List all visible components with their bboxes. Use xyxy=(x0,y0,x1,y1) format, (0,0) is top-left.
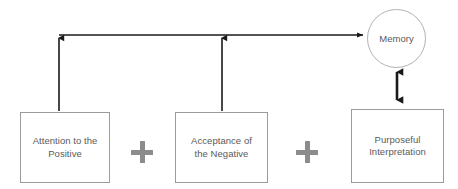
node-label-purposeful-interpretation: Purposeful Interpretation xyxy=(364,134,431,159)
node-label-memory: Memory xyxy=(379,33,413,45)
node-label-attention-to-the-positive: Attention to the Positive xyxy=(28,135,103,160)
node-purposeful-interpretation[interactable]: Purposeful Interpretation xyxy=(351,109,444,183)
node-acceptance-of-the-negative[interactable]: Acceptance of the Negative xyxy=(175,112,268,183)
plus-icon-one xyxy=(131,141,153,163)
node-label-acceptance-of-the-negative: Acceptance of the Negative xyxy=(186,135,257,160)
node-memory[interactable]: Memory xyxy=(367,9,426,68)
plus-icon-two xyxy=(296,141,318,163)
diagram-canvas: Attention to the Positive Acceptance of … xyxy=(0,0,458,189)
node-attention-to-the-positive[interactable]: Attention to the Positive xyxy=(20,112,110,183)
